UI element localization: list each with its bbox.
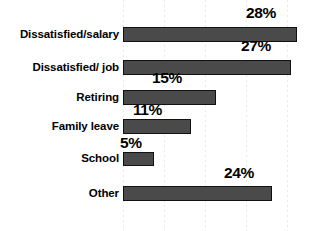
bar-value-label: 27% (241, 38, 271, 54)
category-label: School (81, 152, 119, 165)
category-label: Family leave (52, 120, 119, 133)
bar (123, 186, 272, 201)
bar-value-label: 15% (152, 70, 182, 86)
bar-value-label: 28% (246, 5, 276, 21)
bar-value-label: 11% (133, 102, 162, 118)
bar-chart: Dissatisfied/salary28%Dissatisfied/ job2… (0, 0, 313, 231)
category-label: Other (89, 187, 119, 200)
bar (123, 119, 191, 134)
category-label: Dissatisfied/salary (20, 28, 119, 41)
bar-value-label: 24% (224, 165, 254, 181)
bar (123, 60, 291, 75)
category-label: Retiring (76, 91, 119, 104)
category-label: Dissatisfied/ job (33, 61, 120, 74)
bar-value-label: 5% (120, 135, 142, 151)
bar (123, 152, 154, 166)
chart-plot-area: Dissatisfied/salary28%Dissatisfied/ job2… (0, 0, 313, 231)
